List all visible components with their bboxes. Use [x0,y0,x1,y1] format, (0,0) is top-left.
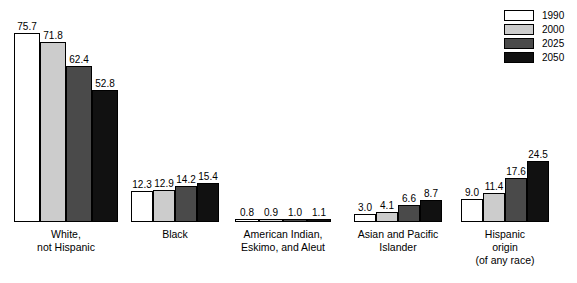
bar-value-label: 12.9 [154,178,173,189]
group-label-line: origin [476,241,535,254]
bar-2000[interactable]: 71.8 [40,42,66,222]
bar-2025[interactable]: 17.6 [505,178,527,222]
bars-row: 9.011.417.624.5 [461,161,549,222]
group-label-1: Black [162,228,188,241]
bar-2025[interactable]: 6.6 [398,205,420,222]
group-label-line: Eskimo, and Aleut [241,241,325,254]
group-label-line: Hispanic [476,228,535,241]
bar-rect-1990 [131,191,153,222]
bar-value-label: 75.7 [17,21,36,32]
bar-rect-2050 [307,219,331,222]
bar-value-label: 71.8 [43,30,62,41]
bar-rect-2000 [153,190,175,222]
bars-row: 0.80.91.01.1 [235,219,331,222]
legend-item-2025: 2025 [504,38,576,49]
bar-2000[interactable]: 4.1 [376,212,398,222]
bar-rect-2050 [527,161,549,222]
bar-rect-2050 [420,200,442,222]
bar-2025[interactable]: 14.2 [175,186,197,222]
bar-rect-2025 [398,205,420,222]
group-label-line: (of any race) [476,254,535,267]
group-label-line: White, [37,228,95,241]
bar-1990[interactable]: 3.0 [354,214,376,222]
bar-2000[interactable]: 12.9 [153,190,175,222]
bar-rect-2000 [259,219,283,222]
bar-2025[interactable]: 1.0 [283,219,307,222]
bar-value-label: 6.6 [402,193,416,204]
legend-item-2000: 2000 [504,24,576,35]
bar-value-label: 52.8 [95,78,114,89]
group-label-3: Asian and PacificIslander [358,228,439,254]
legend-item-2050: 2050 [504,52,576,63]
bar-value-label: 12.3 [132,179,151,190]
legend-label-2050: 2050 [542,52,564,63]
legend-label-2025: 2025 [542,38,564,49]
bar-value-label: 0.9 [264,207,278,218]
bars-row: 3.04.16.68.7 [354,200,442,222]
group-label-line: Black [162,228,188,241]
bar-1990[interactable]: 75.7 [14,33,40,222]
legend-label-1990: 1990 [542,10,564,21]
bar-2025[interactable]: 62.4 [66,66,92,222]
bar-rect-1990 [235,219,259,222]
cropped-footer-text [330,272,577,282]
bar-rect-2050 [92,90,118,222]
legend-swatch-2025 [504,38,534,49]
bar-rect-2025 [505,178,527,222]
bar-rect-2000 [376,212,398,222]
bar-rect-2025 [66,66,92,222]
bar-1990[interactable]: 12.3 [131,191,153,222]
bar-2050[interactable]: 15.4 [197,183,219,222]
population-projection-bar-chart: 1990200020252050 75.771.862.452.8White,n… [0,0,577,283]
bar-rect-1990 [461,199,483,222]
bar-value-label: 62.4 [69,54,88,65]
bar-2050[interactable]: 8.7 [420,200,442,222]
legend-swatch-2000 [504,24,534,35]
bar-value-label: 15.4 [198,171,217,182]
bar-rect-2000 [483,193,505,222]
bar-2050[interactable]: 1.1 [307,219,331,222]
legend-swatch-2050 [504,52,534,63]
bar-value-label: 4.1 [380,200,394,211]
bar-value-label: 0.8 [240,207,254,218]
group-label-line: Islander [358,241,439,254]
group-label-line: Asian and Pacific [358,228,439,241]
bar-rect-2025 [283,219,307,222]
bar-rect-1990 [354,214,376,222]
bar-value-label: 24.5 [528,149,547,160]
bars-row: 75.771.862.452.8 [14,33,118,222]
bar-rect-2050 [197,183,219,222]
bar-value-label: 3.0 [358,202,372,213]
bar-2000[interactable]: 0.9 [259,219,283,222]
bar-value-label: 14.2 [176,174,195,185]
bar-1990[interactable]: 0.8 [235,219,259,222]
group-label-line: not Hispanic [37,241,95,254]
bar-1990[interactable]: 9.0 [461,199,483,222]
bar-2050[interactable]: 52.8 [92,90,118,222]
bar-rect-1990 [14,33,40,222]
bar-value-label: 1.0 [288,207,302,218]
bar-rect-2000 [40,42,66,222]
group-label-4: Hispanicorigin(of any race) [476,228,535,267]
bar-rect-2025 [175,186,197,222]
group-label-0: White,not Hispanic [37,228,95,254]
bar-value-label: 1.1 [312,207,326,218]
bars-row: 12.312.914.215.4 [131,183,219,222]
bar-2000[interactable]: 11.4 [483,193,505,222]
bar-value-label: 11.4 [485,181,504,192]
legend-swatch-1990 [504,10,534,21]
bar-value-label: 8.7 [424,188,438,199]
legend-item-1990: 1990 [504,10,576,21]
chart-legend: 1990200020252050 [504,10,576,66]
legend-label-2000: 2000 [542,24,564,35]
bar-2050[interactable]: 24.5 [527,161,549,222]
bar-value-label: 9.0 [465,187,479,198]
group-label-2: American Indian,Eskimo, and Aleut [241,228,325,254]
bar-value-label: 17.6 [506,166,525,177]
group-label-line: American Indian, [241,228,325,241]
